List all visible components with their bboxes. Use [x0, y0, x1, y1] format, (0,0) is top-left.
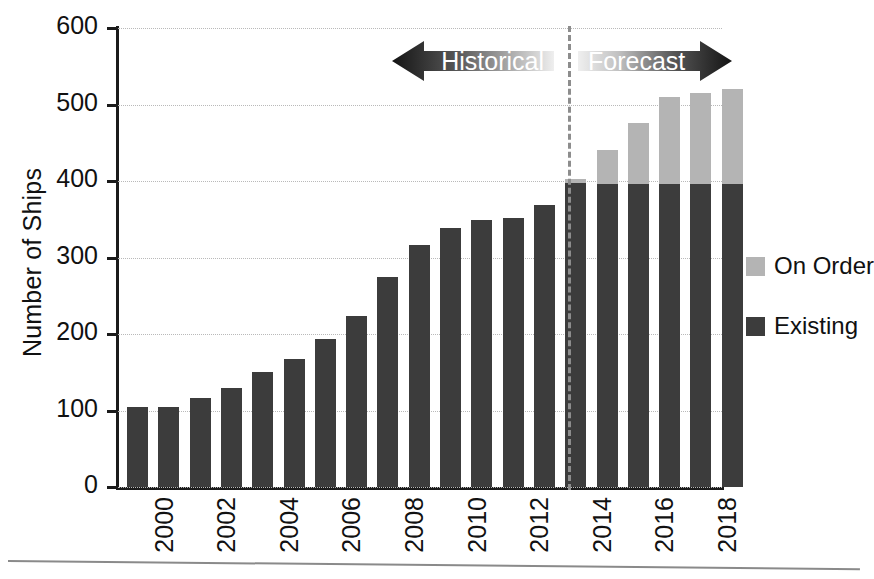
legend-item[interactable]: On Order — [746, 252, 866, 280]
bar-segment-existing — [690, 184, 711, 487]
y-axis-tick-label: 100 — [28, 394, 98, 423]
x-axis-tick-label: 2016 — [650, 497, 679, 553]
chart-legend: On OrderExisting — [746, 252, 866, 372]
y-axis-tick-label: 600 — [28, 11, 98, 40]
bar-segment-existing — [409, 245, 430, 488]
bar — [503, 28, 524, 487]
bar — [346, 28, 367, 487]
bar — [440, 28, 461, 487]
bar-segment-existing — [346, 316, 367, 487]
x-axis-tick-label: 2018 — [713, 497, 742, 553]
bar — [315, 28, 336, 487]
y-axis-tick-label: 500 — [28, 88, 98, 117]
bar-segment-on-order — [690, 93, 711, 184]
bar-segment-existing — [377, 277, 398, 487]
x-axis-tick-label: 2004 — [275, 497, 304, 553]
bar-segment-existing — [158, 407, 179, 487]
historical-arrow-label: Historical — [441, 40, 544, 82]
page-edge-line — [8, 560, 860, 570]
bar — [690, 28, 711, 487]
x-axis-tick-label: 2010 — [463, 497, 492, 553]
bar-segment-existing — [597, 184, 618, 487]
bar-segment-existing — [722, 184, 743, 487]
bar-segment-existing — [503, 218, 524, 487]
x-axis-tick-label: 2014 — [588, 497, 617, 553]
bar — [377, 28, 398, 487]
bar — [221, 28, 242, 487]
bar — [471, 28, 492, 487]
bar-segment-existing — [471, 220, 492, 487]
bar — [597, 28, 618, 487]
forecast-arrow: Forecast — [578, 40, 732, 82]
bar — [158, 28, 179, 487]
bar — [722, 28, 743, 487]
bar — [284, 28, 305, 487]
bar-segment-existing — [628, 184, 649, 487]
bar-segment-on-order — [628, 123, 649, 184]
bar-segment-existing — [315, 339, 336, 487]
x-axis-tick-label: 2008 — [400, 497, 429, 553]
x-axis-tick-label: 2006 — [337, 497, 366, 553]
bar-segment-existing — [190, 398, 211, 487]
bar — [190, 28, 211, 487]
bar-segment-existing — [284, 359, 305, 487]
legend-item-label: Existing — [774, 312, 858, 340]
bar — [534, 28, 555, 487]
y-axis-tick-label: 200 — [28, 317, 98, 346]
bar-segment-existing — [252, 372, 273, 487]
forecast-arrow-label: Forecast — [588, 40, 685, 82]
y-axis-tick-label: 400 — [28, 164, 98, 193]
x-axis-tick-label: 2000 — [150, 497, 179, 553]
bar-segment-existing — [127, 407, 148, 487]
legend-item-label: On Order — [774, 252, 874, 280]
legend-swatch-icon — [746, 257, 765, 276]
bar-segment-existing — [440, 228, 461, 487]
plot-area — [118, 28, 722, 487]
bar — [659, 28, 680, 487]
bar-segment-existing — [221, 388, 242, 487]
bar-segment-on-order — [659, 97, 680, 184]
legend-swatch-icon — [746, 317, 765, 336]
bar-segment-existing — [659, 184, 680, 487]
gridline — [118, 487, 722, 488]
forecast-divider-line — [568, 26, 571, 490]
y-axis-tick-label: 0 — [28, 470, 98, 499]
bar-segment-existing — [534, 205, 555, 487]
bar — [252, 28, 273, 487]
x-axis-tick-label: 2012 — [525, 497, 554, 553]
historical-arrow: Historical — [392, 40, 554, 82]
legend-item[interactable]: Existing — [746, 312, 866, 340]
y-axis-tick-label: 300 — [28, 241, 98, 270]
x-axis-tick-label: 2002 — [212, 497, 241, 553]
bar-segment-on-order — [722, 89, 743, 184]
bar — [127, 28, 148, 487]
bar — [409, 28, 430, 487]
bar-segment-on-order — [597, 150, 618, 184]
bar — [628, 28, 649, 487]
